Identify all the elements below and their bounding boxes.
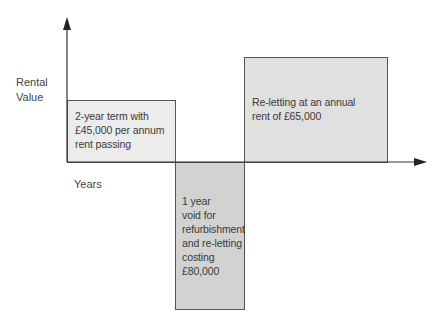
y-axis-label-line2: Value (16, 90, 48, 105)
term-line: £45,000 per annum (75, 123, 164, 137)
void-line: £80,000 (182, 264, 245, 278)
void-line: 1 year (182, 194, 245, 208)
void-box-text: 1 year void for refurbishment and re-let… (182, 194, 245, 278)
y-axis-label-line1: Rental (16, 75, 48, 90)
reletting-line: rent of £65,000 (252, 109, 355, 123)
x-axis-label: Years (74, 177, 102, 192)
term-box-text: 2-year term with £45,000 per annum rent … (75, 109, 164, 151)
void-line: and re-letting (182, 236, 245, 250)
void-line: costing (182, 250, 245, 264)
y-axis-label: Rental Value (16, 75, 48, 105)
void-line: refurbishment (182, 222, 245, 236)
x-axis-arrow-icon (414, 158, 427, 166)
y-axis-arrow-icon (63, 17, 71, 30)
term-line: rent passing (75, 137, 164, 151)
term-line: 2-year term with (75, 109, 164, 123)
reletting-box-text: Re-letting at an annual rent of £65,000 (252, 95, 355, 123)
void-line: void for (182, 208, 245, 222)
reletting-line: Re-letting at an annual (252, 95, 355, 109)
